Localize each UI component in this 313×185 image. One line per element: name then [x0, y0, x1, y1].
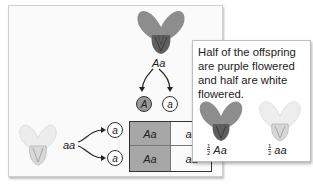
- punnett-cell: Aa: [130, 122, 171, 146]
- gamete-top-recessive: a: [162, 96, 178, 112]
- gamete-top-dominant: A: [136, 96, 152, 112]
- left-parent-genotype: aa: [63, 139, 75, 151]
- arrows-left: [78, 124, 108, 164]
- purple-flower-icon: [198, 96, 244, 142]
- punnett-cell: Aa: [130, 146, 171, 171]
- arrows-top: [135, 68, 180, 93]
- white-flower-icon: [18, 118, 58, 166]
- gamete-left-2: a: [107, 150, 123, 166]
- white-flower-icon: [258, 96, 302, 142]
- offspring-label-white: 12 aa: [268, 143, 287, 156]
- offspring-label-purple: 12 Aa: [207, 143, 227, 156]
- callout-text: Half of the offspring are purple flowere…: [198, 45, 308, 101]
- gamete-left-1: a: [107, 122, 123, 138]
- purple-flower-icon: [135, 5, 187, 55]
